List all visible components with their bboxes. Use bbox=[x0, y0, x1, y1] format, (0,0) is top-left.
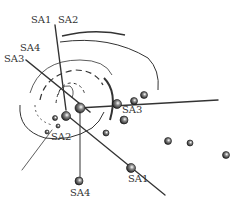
dashed-arc bbox=[40, 70, 103, 100]
axis-sa1-vertical bbox=[55, 25, 66, 110]
label-sa3-mid: SA3 bbox=[122, 104, 142, 115]
atom-sa3-3 bbox=[141, 92, 148, 99]
label-sa1-bottom: SA1 bbox=[128, 173, 148, 184]
atom-small-1 bbox=[53, 116, 58, 121]
label-sa4-bottom: SA4 bbox=[70, 187, 90, 198]
axis-sa2-branch bbox=[22, 130, 52, 170]
atom-far-right bbox=[223, 152, 230, 159]
atom-sa1-bottom bbox=[127, 164, 136, 173]
label-sa2-top: SA2 bbox=[58, 14, 78, 25]
lower-dashed bbox=[35, 105, 52, 125]
axis-sa3-horizontal bbox=[78, 100, 218, 108]
right-arc bbox=[104, 78, 113, 120]
atom-sa4-bottom bbox=[75, 177, 83, 185]
label-sa2-mid: SA2 bbox=[51, 131, 71, 142]
label-sa3-left: SA3 bbox=[4, 53, 24, 64]
atom-near-sa3 bbox=[120, 116, 128, 124]
atom-left bbox=[62, 112, 71, 121]
label-sa1-top: SA1 bbox=[31, 14, 51, 25]
outer-arc-top bbox=[62, 32, 125, 36]
atom-right-1 bbox=[165, 138, 172, 145]
axes bbox=[22, 25, 218, 195]
structure-diagram: SA1 SA2 SA4 SA3 SA3 SA2 SA4 SA1 bbox=[0, 0, 242, 211]
atom-central bbox=[75, 103, 85, 113]
atom-right-2 bbox=[187, 140, 193, 146]
atom-small-2 bbox=[56, 124, 60, 128]
middle-arc-left bbox=[30, 60, 112, 93]
atom-sa2 bbox=[45, 130, 49, 134]
label-sa4-left: SA4 bbox=[20, 42, 40, 53]
helix-arcs bbox=[20, 32, 158, 139]
atom-sa3-1 bbox=[113, 100, 122, 109]
outer-arc-top2 bbox=[60, 40, 158, 90]
atom-mid bbox=[103, 130, 109, 136]
